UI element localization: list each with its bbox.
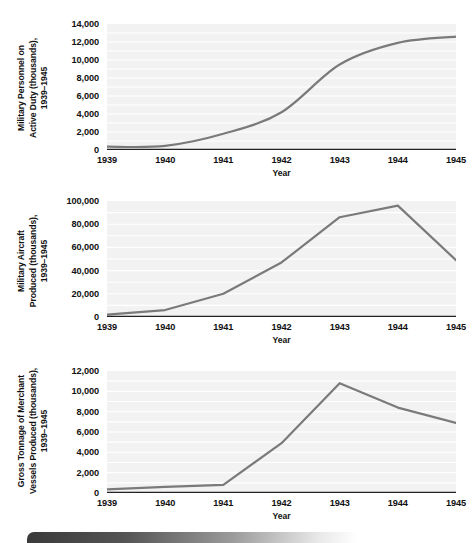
y-tick-label: 12,000 <box>71 37 99 47</box>
x-axis-title: Year <box>272 168 290 178</box>
x-axis-title: Year <box>272 511 290 521</box>
plot-svg <box>107 201 456 317</box>
plot-area <box>107 371 456 493</box>
x-tick-label: 1945 <box>446 498 466 508</box>
x-tick-label: 1940 <box>155 498 175 508</box>
y-tick-label: 2,000 <box>77 127 100 137</box>
y-tick-labels: 02,0004,0006,0008,00010,00012,00014,000 <box>45 8 103 183</box>
y-tick-label: 80,000 <box>71 219 99 229</box>
x-tick-label: 1944 <box>388 155 408 165</box>
x-tick-label: 1945 <box>446 155 466 165</box>
plot-svg <box>107 371 456 493</box>
plot-svg <box>107 24 456 150</box>
x-tick-label: 1944 <box>388 498 408 508</box>
x-tick-label: 1943 <box>330 155 350 165</box>
x-tick-label: 1939 <box>97 498 117 508</box>
plot-area <box>107 24 456 150</box>
y-tick-label: 6,000 <box>77 427 100 437</box>
x-tick-label: 1942 <box>271 498 291 508</box>
y-tick-label: 10,000 <box>71 55 99 65</box>
x-tick-labels: 1939194019411942194319441945 <box>107 322 456 336</box>
page-footer-band <box>27 532 357 543</box>
y-tick-label: 20,000 <box>71 289 99 299</box>
x-tick-label: 1943 <box>330 498 350 508</box>
y-tick-label: 4,000 <box>77 109 100 119</box>
plot-area <box>107 201 456 317</box>
x-tick-label: 1942 <box>271 322 291 332</box>
chart-figure-stack: Military Personnel on Active Duty (thous… <box>0 0 473 543</box>
y-tick-label: 14,000 <box>71 19 99 29</box>
x-tick-label: 1943 <box>330 322 350 332</box>
chart-military-personnel: Military Personnel on Active Duty (thous… <box>0 8 473 183</box>
y-tick-labels: 020,00040,00060,00080,000100,000 <box>45 183 103 355</box>
y-tick-label: 100,000 <box>66 196 99 206</box>
x-axis-title: Year <box>272 335 290 345</box>
x-tick-label: 1941 <box>213 155 233 165</box>
y-tick-label: 60,000 <box>71 242 99 252</box>
x-tick-label: 1941 <box>213 498 233 508</box>
data-line <box>107 37 456 147</box>
y-tick-label: 0 <box>94 312 99 322</box>
y-tick-label: 4,000 <box>77 447 100 457</box>
y-tick-label: 12,000 <box>71 366 99 376</box>
data-line <box>107 383 456 489</box>
y-tick-label: 8,000 <box>77 407 100 417</box>
y-tick-label: 2,000 <box>77 468 100 478</box>
x-tick-label: 1944 <box>388 322 408 332</box>
y-tick-label: 40,000 <box>71 266 99 276</box>
y-tick-label: 0 <box>94 145 99 155</box>
x-tick-label: 1941 <box>213 322 233 332</box>
y-tick-labels: 02,0004,0006,0008,00010,00012,000 <box>45 355 103 527</box>
data-line <box>107 206 456 315</box>
x-tick-label: 1939 <box>97 322 117 332</box>
x-tick-label: 1945 <box>446 322 466 332</box>
chart-military-aircraft: Military Aircraft Produced (thousands), … <box>0 183 473 355</box>
x-tick-label: 1942 <box>271 155 291 165</box>
y-tick-label: 8,000 <box>77 73 100 83</box>
x-tick-label: 1940 <box>155 155 175 165</box>
x-tick-label: 1940 <box>155 322 175 332</box>
x-tick-labels: 1939194019411942194319441945 <box>107 155 456 169</box>
chart-merchant-tonnage: Gross Tonnage of Merchant Vessels Produc… <box>0 355 473 527</box>
x-tick-labels: 1939194019411942194319441945 <box>107 498 456 512</box>
y-tick-label: 0 <box>94 488 99 498</box>
x-tick-label: 1939 <box>97 155 117 165</box>
y-tick-label: 10,000 <box>71 386 99 396</box>
y-tick-label: 6,000 <box>77 91 100 101</box>
